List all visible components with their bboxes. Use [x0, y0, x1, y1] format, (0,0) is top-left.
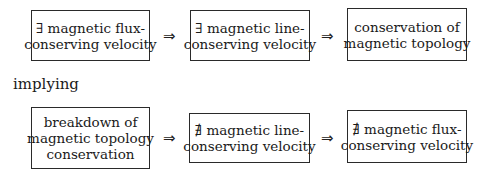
box-line: conserving velocity — [24, 36, 156, 52]
implying-label: implying — [13, 75, 79, 93]
box-line: ∃ magnetic flux- — [36, 20, 145, 36]
box-line: conservation — [47, 146, 135, 162]
box-not-exists-line-conserving-velocity: ∄ magnetic line- conserving velocity — [189, 113, 310, 163]
box-line: ∃ magnetic line- — [195, 20, 304, 36]
implies-arrow-icon: ⇒ — [163, 130, 176, 146]
box-exists-line-conserving-velocity: ∃ magnetic line- conserving velocity — [190, 10, 310, 61]
box-line: conserving velocity — [184, 36, 316, 52]
box-line: magnetic topology — [344, 35, 471, 51]
box-line: magnetic topology — [27, 130, 154, 146]
box-line: conserving velocity — [341, 137, 473, 153]
box-line: ∄ magnetic line- — [195, 122, 304, 138]
implies-arrow-icon: ⇒ — [163, 28, 176, 44]
box-line: conserving velocity — [183, 138, 315, 154]
box-line: conservation of — [354, 19, 459, 35]
box-exists-flux-conserving-velocity: ∃ magnetic flux- conserving velocity — [31, 10, 150, 61]
box-conservation-of-topology: conservation of magnetic topology — [347, 8, 467, 61]
implies-arrow-icon: ⇒ — [321, 130, 334, 146]
box-breakdown-of-topology-conservation: breakdown of magnetic topology conservat… — [31, 107, 150, 169]
box-line: ∄ magnetic flux- — [352, 121, 461, 137]
box-not-exists-flux-conserving-velocity: ∄ magnetic flux- conserving velocity — [347, 110, 467, 163]
implies-arrow-icon: ⇒ — [321, 28, 334, 44]
box-line: breakdown of — [44, 114, 138, 130]
